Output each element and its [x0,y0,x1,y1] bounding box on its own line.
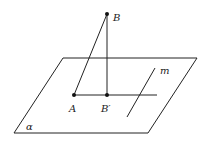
segment-AB [74,14,107,95]
geometry-diagram: B A B′ m α [0,0,209,149]
label-B: B [112,12,120,23]
label-alpha: α [26,121,33,132]
label-A: A [68,103,76,114]
point-A [72,93,76,97]
label-m: m [160,65,169,76]
label-B-prime: B′ [100,103,111,114]
line-m [127,68,155,117]
point-B [105,12,109,16]
point-B-prime [105,93,109,97]
